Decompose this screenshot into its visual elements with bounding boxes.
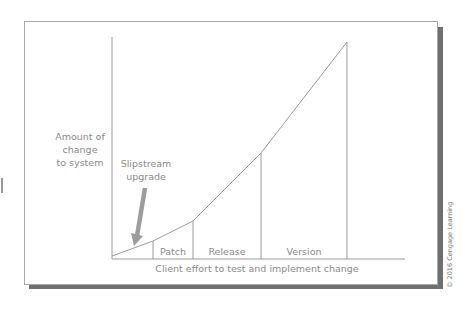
segment-label-version: Version xyxy=(261,245,347,258)
change-effort-curve xyxy=(112,42,347,256)
annotation-line: Slipstream xyxy=(118,157,174,170)
slipstream-upgrade-label: Slipstream upgrade xyxy=(118,157,174,183)
y-axis-label-line: Amount of xyxy=(52,130,108,143)
y-axis-label-line: change xyxy=(52,143,108,156)
copyright-notice: © 2016 Cengage Learning xyxy=(446,208,454,288)
annotation-line: upgrade xyxy=(118,170,174,183)
segment-label-patch: Patch xyxy=(153,245,193,258)
x-axis-label: Client effort to test and implement chan… xyxy=(150,262,364,275)
slipstream-arrow-icon xyxy=(131,188,145,246)
segment-label-release: Release xyxy=(193,245,261,258)
y-axis-label-line: to system xyxy=(52,156,108,169)
y-axis-label: Amount of change to system xyxy=(52,130,108,169)
